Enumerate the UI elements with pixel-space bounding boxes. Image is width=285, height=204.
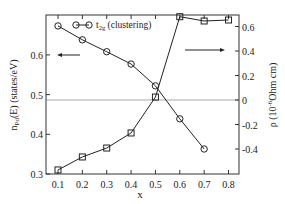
right-tick-label: -0.2 [242,120,258,131]
x-tick-label: 0.2 [76,179,89,190]
x-tick-label: 0.4 [125,179,138,190]
data-point-circle [55,23,61,29]
left-tick-label: 0.6 [31,50,44,61]
right-tick-label: 0.4 [242,46,255,57]
right-axis-label: ρ (10-6Ohm cm) [266,63,279,128]
plot-frame [46,15,239,174]
left-arrow-icon [57,53,80,57]
left-axis-label: nPd(E) (states/eV) [8,60,21,131]
x-tick-label: 0.7 [198,179,211,190]
right-tick-label: -0.4 [242,144,258,155]
x-axis-label: x [137,188,143,200]
legend: t2g (clustering) [73,20,152,31]
chart: 0.10.20.30.40.50.60.70.8 0.30.40.50.6 -0… [0,0,285,204]
series-layer [55,14,232,173]
left-axis-ticks: 0.30.40.50.6 [31,50,51,180]
left-tick-label: 0.5 [31,90,44,101]
x-tick-label: 0.1 [52,179,65,190]
left-tick-label: 0.4 [31,129,44,140]
x-tick-label: 0.6 [174,179,187,190]
right-axis-ticks: -0.4-0.200.20.40.6 [235,22,258,156]
left-tick-label: 0.3 [31,169,44,180]
legend-label: t2g (clustering) [96,20,151,31]
x-tick-label: 0.3 [100,179,113,190]
right-tick-label: 0.2 [242,71,255,82]
right-tick-label: 0.6 [242,22,255,33]
x-tick-label: 0.8 [222,179,235,190]
right-tick-label: 0 [242,95,247,106]
x-tick-label: 0.5 [149,179,162,190]
right-arrow-icon [185,48,225,52]
